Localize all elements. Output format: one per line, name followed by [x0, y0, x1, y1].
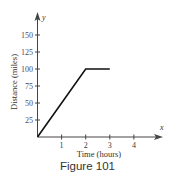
x-axis-letter: x	[159, 123, 164, 132]
series-line-distance	[38, 69, 110, 137]
x-axis-title: Time (hours)	[77, 149, 121, 159]
axes	[35, 12, 164, 140]
ticks: 1234255075100125150	[21, 31, 136, 150]
x-tick-label: 1	[60, 141, 64, 150]
y-tick-label: 25	[25, 116, 33, 125]
y-tick-label: 125	[21, 48, 33, 57]
y-tick-label: 50	[25, 99, 33, 108]
y-tick-label: 150	[21, 31, 33, 40]
x-tick-label: 4	[132, 141, 136, 150]
y-tick-label: 100	[21, 65, 33, 74]
figure-caption: Figure 101	[0, 160, 175, 172]
y-axis-letter: y	[41, 13, 46, 22]
data-series	[38, 69, 110, 137]
y-axis-title: Distance (miles)	[9, 54, 19, 110]
distance-time-chart: 1234255075100125150 x y Time (hours) Dis…	[0, 0, 175, 179]
y-tick-label: 75	[25, 82, 33, 91]
